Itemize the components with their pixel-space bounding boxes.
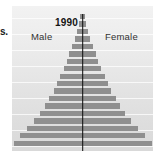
pyramid-bar-female — [83, 36, 91, 41]
population-pyramid-screenshot: s. 1990 Male Female — [0, 0, 157, 153]
pyramid-bar-male — [27, 126, 82, 131]
pyramid-bar-male — [60, 74, 82, 79]
pyramid-bar-female — [83, 29, 89, 34]
pyramid-bar-male — [57, 81, 83, 86]
pyramid-bar-male — [14, 141, 83, 146]
pyramid-bar-female — [83, 141, 152, 146]
pyramid-bar-female — [83, 126, 138, 131]
pyramid-bar-male — [69, 51, 82, 56]
pyramid-bar-female — [83, 59, 99, 64]
pyramid-bar-female — [83, 88, 112, 93]
pyramid-bar-male — [64, 66, 83, 71]
male-side-label: Male — [31, 31, 52, 42]
pyramid-bar-male — [49, 96, 82, 101]
center-axis-line — [82, 14, 84, 151]
pyramid-bar-female — [83, 111, 125, 116]
pyramid-bar-female — [83, 74, 105, 79]
pyramid-bar-female — [83, 103, 120, 108]
female-side-label: Female — [105, 31, 138, 42]
pyramid-bar-female — [83, 51, 96, 56]
pyramid-bar-male — [40, 111, 82, 116]
pyramid-bar-female — [83, 81, 109, 86]
pyramid-bar-male — [45, 103, 82, 108]
chart-title: 1990 — [0, 17, 145, 28]
pyramid-bar-female — [83, 96, 116, 101]
pyramid-bar-male — [34, 118, 82, 123]
pyramid-bar-male — [54, 88, 83, 93]
pyramid-bar-male — [20, 133, 83, 138]
pyramid-bar-female — [83, 133, 146, 138]
pyramid-bar-male — [67, 59, 83, 64]
pyramid-bar-female — [83, 66, 102, 71]
pyramid-bar-female — [83, 118, 131, 123]
pyramid-bar-female — [83, 44, 93, 49]
